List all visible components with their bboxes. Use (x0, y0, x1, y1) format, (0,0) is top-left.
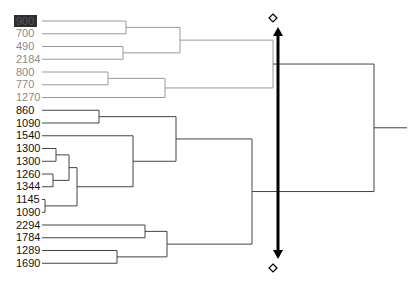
leaf-label[interactable]: 1145 (16, 193, 40, 205)
arrow-up-icon[interactable] (273, 27, 283, 36)
leaf-label[interactable]: 860 (16, 104, 34, 116)
dendrogram-canvas (0, 0, 420, 283)
arrow-down-icon[interactable] (273, 250, 283, 259)
leaf-label[interactable]: 770 (16, 78, 34, 90)
leaf-label[interactable]: 1784 (16, 231, 40, 243)
leaf-label[interactable]: 1289 (16, 244, 40, 256)
diamond-handle-bottom-icon[interactable] (269, 264, 277, 272)
leaf-label[interactable]: 700 (16, 27, 34, 39)
leaf-label[interactable]: 2184 (16, 53, 40, 65)
leaf-label[interactable]: 1260 (16, 168, 40, 180)
leaf-label[interactable]: 1090 (16, 206, 40, 218)
leaf-label[interactable]: 1300 (16, 155, 40, 167)
leaf-label[interactable]: 1090 (16, 117, 40, 129)
leaf-label[interactable]: 1540 (16, 129, 40, 141)
leaf-label[interactable]: 1300 (16, 142, 40, 154)
leaf-label[interactable]: 490 (16, 40, 34, 52)
diamond-handle-top-icon[interactable] (269, 14, 277, 22)
leaf-label[interactable]: 2294 (16, 219, 40, 231)
leaf-label[interactable]: 1690 (16, 257, 40, 269)
leaf-label[interactable]: 900 (14, 15, 37, 27)
leaf-label[interactable]: 800 (16, 66, 34, 78)
leaf-label[interactable]: 1344 (16, 180, 40, 192)
leaf-label[interactable]: 1270 (16, 91, 40, 103)
